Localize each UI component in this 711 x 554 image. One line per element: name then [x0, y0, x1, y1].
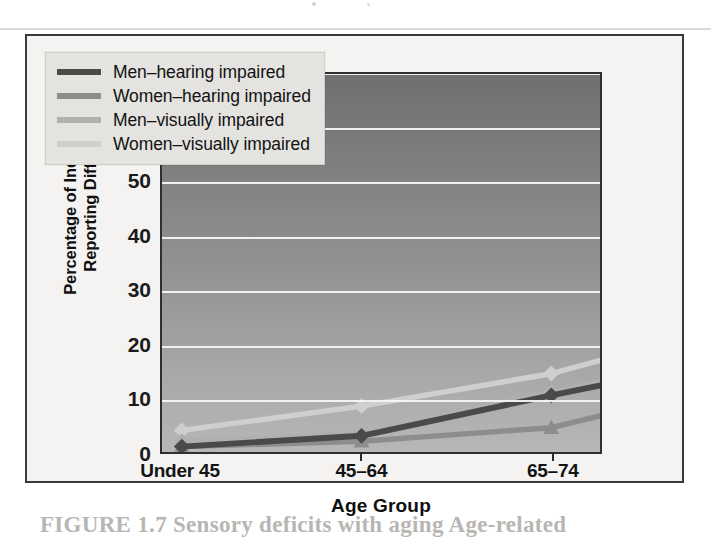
x-tick-mark — [360, 454, 362, 461]
chart-legend: Men–hearing impairedWomen–hearing impair… — [45, 52, 325, 165]
scan-artifact-speck — [367, 3, 370, 6]
x-tick-label: Under 45 — [140, 460, 220, 482]
legend-item-1: Men–hearing impaired — [57, 60, 311, 84]
y-tick-label: 20 — [111, 334, 151, 355]
series-3 — [174, 174, 600, 449]
x-tick-label: 45–64 — [335, 460, 387, 482]
gridline — [162, 237, 600, 239]
legend-label: Men–visually impaired — [113, 110, 284, 131]
figure-caption-partial: FIGURE 1.7 Sensory deficits with aging A… — [40, 512, 680, 546]
legend-label: Women–hearing impaired — [113, 86, 311, 107]
legend-item-2: Women–hearing impaired — [57, 84, 311, 108]
chart-canvas: 010203040506070 Percentage of Individual… — [27, 36, 686, 485]
x-tick-label: 65–74 — [527, 460, 579, 482]
y-tick-label: 10 — [111, 388, 151, 409]
legend-swatch — [57, 69, 101, 75]
legend-label: Men–hearing impaired — [113, 62, 285, 83]
x-tick-mark — [552, 454, 554, 461]
y-tick-label: 50 — [111, 170, 151, 191]
x-axis-ticks: Under 4545–6465–7475–8485+ — [160, 460, 602, 490]
legend-swatch — [57, 117, 101, 123]
gridline — [162, 346, 600, 348]
x-axis-title: Age Group — [160, 495, 602, 517]
gridline — [162, 182, 600, 184]
gridline — [162, 291, 600, 293]
y-tick-label: 30 — [111, 279, 151, 300]
scan-artifact-line — [0, 28, 711, 30]
legend-swatch — [57, 141, 101, 147]
y-tick-label: 40 — [111, 225, 151, 246]
legend-item-3: Men–visually impaired — [57, 108, 311, 132]
data-point — [543, 366, 559, 382]
gridline — [162, 400, 600, 402]
figure-frame: 010203040506070 Percentage of Individual… — [25, 34, 684, 483]
legend-swatch — [57, 93, 101, 99]
scan-artifact-speck — [312, 2, 316, 6]
legend-item-4: Women–visually impaired — [57, 132, 311, 156]
legend-label: Women–visually impaired — [113, 134, 310, 155]
